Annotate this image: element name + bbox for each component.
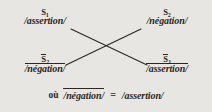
node-bottom-left-term-overline: /négation/ [25,63,66,75]
equation-line: où /négation/ = /assertion/ [0,88,212,101]
node-top-left-label-subscript: 1 [46,12,49,18]
node-bottom-right: /assertion/ S1 [128,54,206,74]
node-top-right-label-subscript: 2 [168,12,171,18]
node-bottom-right-label-subscript: 1 [168,59,171,65]
node-bottom-left-label-subscript: 2 [46,59,49,65]
node-bottom-right-term: /assertion/ [146,63,188,75]
equation-lead-word: où [48,90,58,101]
equation-operator: = [109,89,117,101]
node-bottom-right-term-overline: /assertion/ [146,63,188,75]
equation-left-term-overline: /négation/ [63,88,104,101]
node-bottom-left: /négation/ S2 [6,54,84,74]
equation-left-term: /négation/ [63,88,104,101]
semiotic-square-diagram: S1 /assertion/ S2 /négation/ /négation/ … [0,0,212,112]
node-top-left-term: /assertion/ [6,16,84,26]
node-top-right-term: /négation/ [128,16,206,26]
node-bottom-left-term: /négation/ [25,63,66,75]
node-top-left: S1 /assertion/ [6,8,84,26]
node-top-right: S2 /négation/ [128,8,206,26]
equation-right-term: /assertion/ [122,90,164,101]
